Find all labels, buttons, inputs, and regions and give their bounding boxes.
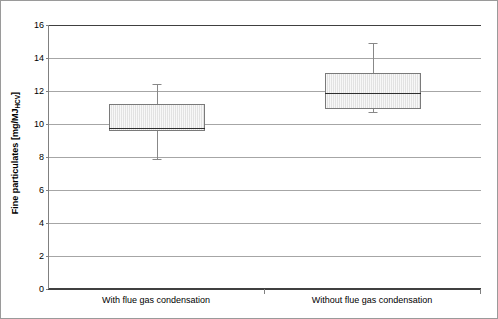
box-iqr xyxy=(325,73,421,109)
boxplot-2 xyxy=(325,25,421,289)
boxplot-1 xyxy=(109,25,205,289)
x-axis-label-2: Without flue gas condensation xyxy=(312,295,433,305)
y-tick-label: 4 xyxy=(39,218,44,228)
y-tick-mark xyxy=(46,25,49,26)
y-axis-title: Fine particulates [mg/MJHCV] xyxy=(7,13,23,293)
whisker-lower xyxy=(157,131,158,159)
x-axis-label-1: With flue gas condensation xyxy=(102,295,210,305)
y-tick-mark xyxy=(46,223,49,224)
y-tick-mark xyxy=(46,256,49,257)
whisker-cap-upper xyxy=(369,43,378,44)
y-tick-label: 2 xyxy=(39,251,44,261)
y-tick-label: 16 xyxy=(34,20,44,30)
x-tick-mark xyxy=(480,289,481,294)
y-tick-label: 14 xyxy=(34,53,44,63)
y-tick-mark xyxy=(46,190,49,191)
y-tick-label: 12 xyxy=(34,86,44,96)
y-axis-title-main: Fine particulates [mg/MJ xyxy=(10,109,20,215)
whisker-cap-upper xyxy=(153,84,162,85)
y-tick-mark xyxy=(46,58,49,59)
y-tick-label: 0 xyxy=(39,284,44,294)
y-tick-mark xyxy=(46,91,49,92)
median-line xyxy=(325,93,421,94)
boxplot-chart: Fine particulates [mg/MJHCV] 02468101214… xyxy=(0,0,498,319)
median-line xyxy=(109,128,205,129)
plot-area: 0246810121416 xyxy=(48,25,481,289)
y-tick-label: 8 xyxy=(39,152,44,162)
whisker-cap-lower xyxy=(369,112,378,113)
box-iqr xyxy=(109,104,205,130)
y-tick-label: 6 xyxy=(39,185,44,195)
whisker-upper xyxy=(157,84,158,104)
y-tick-mark xyxy=(46,157,49,158)
y-tick-mark xyxy=(46,124,49,125)
y-axis-title-subscript: HCV xyxy=(14,95,21,109)
y-tick-label: 10 xyxy=(34,119,44,129)
x-tick-mark xyxy=(264,289,265,294)
whisker-cap-lower xyxy=(153,159,162,160)
whisker-upper xyxy=(373,43,374,73)
